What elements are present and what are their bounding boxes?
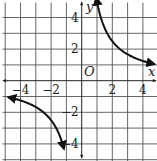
y-tick-label: −4 <box>61 137 79 151</box>
y-tick-label: 2 <box>71 42 79 56</box>
y-tick-label: −2 <box>61 105 79 119</box>
x-tick-label: −2 <box>42 83 60 97</box>
x-tick-label: 4 <box>139 83 147 97</box>
y-axis-label: y <box>85 0 94 14</box>
x-axis-label: x <box>148 64 156 79</box>
origin-label: O <box>84 64 95 79</box>
x-tick-label: −4 <box>12 83 30 97</box>
hyperbola-graph: −4−22442−2−4 x y O <box>0 0 157 161</box>
y-tick-label: 4 <box>71 11 79 25</box>
x-tick-label: 2 <box>108 83 116 97</box>
curve-branch-right <box>96 0 154 64</box>
